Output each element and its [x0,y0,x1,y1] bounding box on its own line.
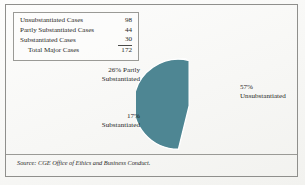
source-prefix: Source: [17,159,36,166]
table-row: Unsubstantiated Cases 98 [20,16,132,26]
table-row: Partly Substantiated Cases 44 [20,26,132,36]
pie-label-substantiated: 17% Substantiated [62,112,140,131]
pie-label-partly-line1: 26% Partly [62,66,140,75]
source-note: Source: CGE Office of Ethics and Busines… [17,159,150,166]
pie-label-substantiated-line1: 17% [62,112,140,121]
total-label: Total Major Cases [20,45,118,55]
pie-chart-svg [136,52,240,156]
pie-label-substantiated-line2: Substantiated [62,121,140,130]
row-value: 98 [118,16,132,26]
source-divider [6,154,297,155]
row-label: Unsubstantiated Cases [20,16,118,26]
pie-slice-unsubstantiated [136,59,189,149]
total-value: 172 [118,45,132,55]
pie-label-unsubstantiated-line2: Unsubstantiated [240,92,302,101]
cases-table-box: Unsubstantiated Cases 98 Partly Substant… [13,12,139,61]
figure-container: Unsubstantiated Cases 98 Partly Substant… [0,0,305,185]
pie-label-partly-line2: Substantiated [62,75,140,84]
row-label: Substantiated Cases [20,35,118,45]
pie-slice-unsubstantiated-group [136,59,189,149]
source-text: CGE Office of Ethics and Business Conduc… [38,159,150,166]
cases-table: Unsubstantiated Cases 98 Partly Substant… [20,16,132,56]
table-total-row: Total Major Cases 172 [20,45,132,55]
pie-label-unsubstantiated-line1: 57% [240,83,302,92]
row-label: Partly Substantiated Cases [20,26,118,36]
pie-label-unsubstantiated: 57% Unsubstantiated [240,83,302,102]
row-value: 44 [118,26,132,36]
table-row: Substantiated Cases 30 [20,35,132,45]
row-value: 30 [118,35,132,45]
pie-chart [136,52,240,156]
pie-label-partly-substantiated: 26% Partly Substantiated [62,66,140,85]
